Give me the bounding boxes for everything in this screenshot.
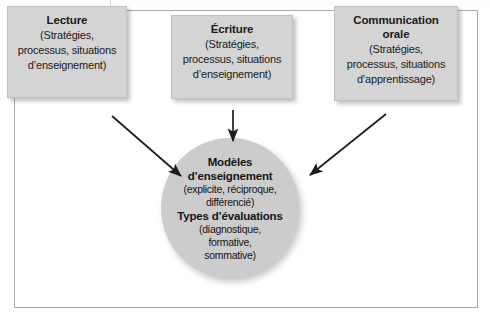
box-communication-title-line1: Communication bbox=[353, 13, 439, 27]
center-heading1-line1: Modèles bbox=[208, 155, 253, 169]
box-ecriture-line2: processus, situations bbox=[183, 52, 282, 66]
center-heading2: Types d’évaluations bbox=[177, 209, 282, 223]
box-ecriture: Écriture (Stratégies, processus, situati… bbox=[171, 15, 293, 99]
center-circle-models: Modèles d’enseignement (explicite, récip… bbox=[161, 138, 299, 278]
center-detail2-line1: (diagnostique, bbox=[199, 223, 261, 236]
diagram-canvas: Lecture (Stratégies, processus, situatio… bbox=[0, 0, 490, 319]
box-ecriture-line3: d’enseignement) bbox=[193, 67, 271, 81]
box-communication-line1: (Stratégies, bbox=[369, 42, 423, 56]
box-communication-title-line2: orale bbox=[383, 27, 410, 41]
center-detail1-line2: différencié) bbox=[206, 196, 254, 209]
box-lecture-line3: d’enseignement) bbox=[28, 58, 106, 72]
box-lecture: Lecture (Stratégies, processus, situatio… bbox=[7, 6, 127, 98]
box-communication-line3: d’apprentissage) bbox=[357, 72, 435, 86]
box-ecriture-line1: (Stratégies, bbox=[205, 37, 259, 51]
box-ecriture-title: Écriture bbox=[211, 22, 254, 36]
center-detail1-line1: (explicite, réciproque, bbox=[184, 183, 277, 196]
center-detail2-line3: sommative) bbox=[204, 249, 255, 262]
box-communication-line2: processus, situations bbox=[347, 57, 446, 71]
box-lecture-line2: processus, situations bbox=[18, 43, 117, 57]
box-lecture-title: Lecture bbox=[47, 13, 88, 27]
box-lecture-line1: (Stratégies, bbox=[40, 28, 94, 42]
center-heading1-line2: d’enseignement bbox=[188, 169, 273, 183]
box-communication-orale: Communication orale (Stratégies, process… bbox=[334, 6, 458, 101]
center-detail2-line2: formative, bbox=[208, 236, 251, 249]
